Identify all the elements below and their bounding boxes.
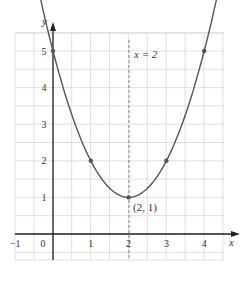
y-tick-label: 3 (42, 119, 47, 130)
data-point (126, 195, 130, 199)
y-axis-label: y (41, 15, 47, 27)
y-axis-arrow-icon (50, 22, 56, 31)
grid (15, 33, 224, 260)
x-tick-label: 0 (41, 238, 46, 249)
x-tick-label: −1 (10, 238, 21, 249)
data-point (164, 159, 168, 163)
x-tick-label: 1 (88, 238, 93, 249)
data-point (202, 49, 206, 53)
x-tick-labels: −101234 (10, 238, 207, 249)
y-tick-label: 5 (42, 46, 47, 57)
x-tick-label: 2 (126, 238, 131, 249)
x-tick-label: 4 (202, 238, 207, 249)
vertex-label: (2, 1) (133, 201, 157, 214)
x-axis-label: x (228, 236, 234, 248)
parabola-chart: −101234 12345 x y x = 2 (2, 1) (0, 0, 246, 281)
x-tick-label: 3 (164, 238, 169, 249)
y-tick-label: 4 (42, 82, 47, 93)
y-tick-label: 1 (42, 192, 47, 203)
axis-of-symmetry-label: x = 2 (133, 48, 158, 60)
data-point (51, 49, 55, 53)
data-point (89, 159, 93, 163)
y-tick-label: 2 (42, 155, 47, 166)
